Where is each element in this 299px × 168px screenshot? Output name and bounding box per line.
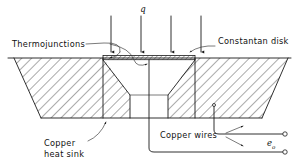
copper-heat-sink-label-line1: Copper [44,138,76,148]
wire-junction-point [213,104,216,107]
copper-heat-sink [8,58,291,118]
constantan-disk-body [103,56,195,60]
output-voltage-subscript: o [272,144,276,150]
constantan-disk [103,56,195,60]
heat-sink-right-cone-hatch [168,58,195,118]
incident-heat-flux-arrows [111,16,201,52]
output-terminal-top [283,132,287,136]
copper-heat-sink-leader [88,122,106,141]
output-terminal-bottom [283,150,287,154]
heat-sink-left-cone-hatch [103,58,130,118]
constantan-disk-leader [190,46,215,52]
heat-flux-gauge-diagram: q Thermojunctions Constantan disk Copper… [0,0,299,168]
heat-flux-label: q [140,4,146,14]
copper-heat-sink-label-line2: heat sink [44,149,84,159]
thermojunction-leader-main [86,43,120,52]
figure-root: q Thermojunctions Constantan disk Copper… [0,0,299,168]
copper-wires-leader-upper [226,126,243,133]
constantan-disk-label: Constantan disk [218,36,289,46]
heat-sink-right-hatch [195,58,288,118]
copper-wires-label: Copper wires [160,130,217,140]
thermojunctions-label: Thermojunctions [11,39,85,49]
copper-wires-leader-lower [226,137,243,146]
